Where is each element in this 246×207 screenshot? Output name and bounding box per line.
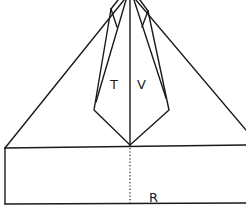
label-r: R: [149, 190, 158, 205]
outer-right-edge: [136, 0, 246, 130]
right-flap-tip-fold: [142, 11, 148, 27]
label-t: T: [109, 77, 118, 92]
outer-left-edge: [5, 0, 124, 148]
left-flap-top: [111, 0, 118, 9]
label-v: V: [137, 77, 146, 92]
base-bottom-edge: [5, 203, 246, 204]
base-top-edge: [5, 145, 246, 148]
fold-diagram: T V R: [0, 0, 246, 207]
